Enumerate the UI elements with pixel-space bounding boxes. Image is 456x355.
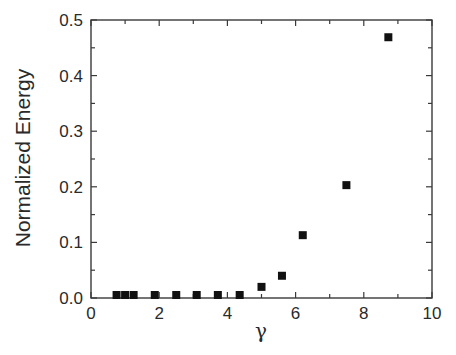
y-tick-label: 0.5 (59, 11, 83, 30)
data-point-square (113, 291, 121, 299)
scatter-chart: 0246810 0.00.10.20.30.40.5 Normalized En… (0, 0, 456, 355)
data-point-square (121, 291, 129, 299)
data-point-square (384, 33, 392, 41)
y-tick-label: 0.4 (59, 67, 83, 86)
x-tick-label: 8 (359, 304, 368, 323)
data-points (113, 33, 393, 299)
plot-frame (91, 20, 432, 298)
data-point-square (193, 291, 201, 299)
data-point-square (214, 291, 222, 299)
x-axis-label: γ (255, 319, 267, 343)
y-tick-labels: 0.00.10.20.30.40.5 (59, 11, 83, 308)
data-point-square (130, 291, 138, 299)
data-point-square (342, 181, 350, 189)
x-tick-label: 10 (423, 304, 442, 323)
data-point-square (278, 272, 286, 280)
data-point-square (172, 291, 180, 299)
axis-ticks (91, 20, 432, 298)
x-tick-label: 4 (223, 304, 232, 323)
y-tick-label: 0.1 (59, 233, 83, 252)
data-point-square (151, 291, 159, 299)
x-tick-label: 2 (154, 304, 163, 323)
data-point-square (236, 291, 244, 299)
y-tick-label: 0.2 (59, 178, 83, 197)
data-point-square (299, 231, 307, 239)
plot-area-border (91, 20, 432, 298)
y-tick-label: 0.3 (59, 122, 83, 141)
data-point-square (258, 283, 266, 291)
x-tick-label: 6 (291, 304, 300, 323)
y-axis-label: Normalized Energy (11, 68, 34, 247)
y-tick-label: 0.0 (59, 289, 83, 308)
x-tick-label: 0 (86, 304, 95, 323)
